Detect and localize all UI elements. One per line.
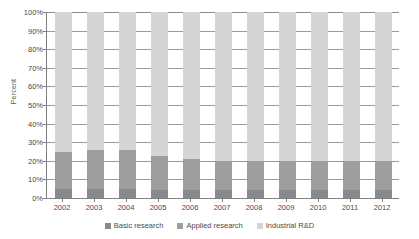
- y-axis-tick-label: 80%: [28, 45, 43, 54]
- x-axis-tick-label: 2006: [174, 203, 206, 212]
- bar-group: [47, 12, 399, 198]
- y-axis-tick-label: 0%: [32, 194, 43, 203]
- bar-column: [111, 12, 143, 198]
- x-axis-tickmark: [382, 198, 383, 202]
- bar-column: [207, 12, 239, 198]
- legend-item[interactable]: Applied research: [177, 221, 242, 230]
- x-axis-tick-label: 2009: [270, 203, 302, 212]
- x-axis-tickmark: [94, 198, 95, 202]
- bar-segment: [343, 12, 360, 161]
- legend-item[interactable]: Industrial R&D: [257, 221, 314, 230]
- bar-segment: [343, 190, 360, 198]
- bar-segment: [119, 150, 136, 189]
- x-axis-tick-label: 2004: [110, 203, 142, 212]
- bar-segment: [279, 161, 296, 190]
- bar-segment: [279, 12, 296, 161]
- chart-legend: Basic researchApplied researchIndustrial…: [0, 221, 419, 230]
- bar-segment: [247, 190, 264, 198]
- bar-column: [335, 12, 367, 198]
- y-axis-tick-label: 60%: [28, 82, 43, 91]
- bar-segment: [247, 161, 264, 190]
- x-axis-tickmark: [190, 198, 191, 202]
- x-axis-tick-label: 2003: [78, 203, 110, 212]
- y-axis-tick-label: 20%: [28, 156, 43, 165]
- y-axis-tick-label: 90%: [28, 26, 43, 35]
- bar-segment: [375, 161, 392, 190]
- bar-column: [47, 12, 79, 198]
- y-axis-title: Percent: [10, 57, 17, 127]
- bar-segment: [247, 12, 264, 161]
- bar-column: [303, 12, 335, 198]
- y-axis-tick-label: 10%: [28, 175, 43, 184]
- bar-segment: [183, 159, 200, 190]
- x-axis-tickmark: [350, 198, 351, 202]
- plot-area: 100%90%80%70%60%50%40%30%20%10%0%: [46, 12, 399, 199]
- legend-swatch-icon: [257, 223, 263, 229]
- x-axis-tick-label: 2008: [238, 203, 270, 212]
- x-axis-tickmark: [158, 198, 159, 202]
- bar-segment: [375, 190, 392, 198]
- x-axis-tickmark: [62, 198, 63, 202]
- bar-segment: [151, 156, 168, 189]
- bar-segment: [215, 12, 232, 161]
- x-axis-tick-label: 2002: [46, 203, 78, 212]
- stacked-bar-chart: Percent 100%90%80%70%60%50%40%30%20%10%0…: [0, 0, 419, 239]
- x-axis-tickmark: [126, 198, 127, 202]
- bar-segment: [215, 190, 232, 198]
- bar-segment: [55, 12, 72, 152]
- x-axis-tickmark: [318, 198, 319, 202]
- x-axis-tick-label: 2007: [206, 203, 238, 212]
- legend-swatch-icon: [105, 223, 111, 229]
- bar-segment: [375, 12, 392, 161]
- bar-segment: [119, 12, 136, 150]
- bar-segment: [279, 190, 296, 198]
- y-axis-tick-label: 100%: [24, 8, 43, 17]
- legend-item[interactable]: Basic research: [105, 221, 164, 230]
- bar-segment: [151, 190, 168, 198]
- bar-segment: [183, 12, 200, 159]
- bar-column: [239, 12, 271, 198]
- legend-swatch-icon: [177, 223, 183, 229]
- y-axis-tick-label: 40%: [28, 119, 43, 128]
- y-axis-tick-label: 50%: [28, 101, 43, 110]
- x-axis-labels: 2002200320042005200620072008200920102011…: [46, 203, 398, 212]
- x-axis-tick-label: 2005: [142, 203, 174, 212]
- bar-segment: [311, 12, 328, 161]
- x-axis-tickmark: [222, 198, 223, 202]
- x-axis-tick-label: 2012: [366, 203, 398, 212]
- bar-segment: [343, 161, 360, 190]
- bar-column: [79, 12, 111, 198]
- bar-segment: [55, 152, 72, 189]
- bar-segment: [55, 189, 72, 198]
- bar-segment: [151, 12, 168, 156]
- bar-segment: [311, 190, 328, 198]
- legend-label: Basic research: [114, 221, 164, 230]
- bar-column: [175, 12, 207, 198]
- bar-column: [367, 12, 399, 198]
- bar-segment: [87, 189, 104, 198]
- bar-column: [143, 12, 175, 198]
- bar-segment: [311, 161, 328, 190]
- bar-column: [271, 12, 303, 198]
- bar-segment: [183, 190, 200, 198]
- bar-segment: [119, 189, 136, 198]
- x-axis-tickmark: [254, 198, 255, 202]
- legend-label: Applied research: [186, 221, 242, 230]
- y-axis-tick-label: 70%: [28, 63, 43, 72]
- bar-segment: [87, 150, 104, 189]
- legend-label: Industrial R&D: [266, 221, 314, 230]
- x-axis-tick-label: 2011: [334, 203, 366, 212]
- x-axis-tickmark: [286, 198, 287, 202]
- y-axis-tick-label: 30%: [28, 138, 43, 147]
- bar-segment: [87, 12, 104, 150]
- bar-segment: [215, 161, 232, 190]
- x-axis-tick-label: 2010: [302, 203, 334, 212]
